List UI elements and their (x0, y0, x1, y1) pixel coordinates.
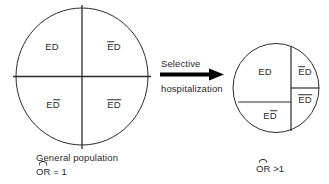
right-cell-label-ebar-dbar: ED (298, 95, 312, 105)
left-caption-or-label: OR (36, 166, 50, 178)
berkson-bias-figure: ED ED ED ED General population OR = 1 Se… (0, 0, 329, 184)
left-cell-label-ed: ED (45, 42, 59, 52)
right-cell-ebar-d-e: E (298, 67, 305, 77)
left-circle-caption: General population OR = 1 (36, 152, 118, 178)
right-cell-label-ed: ED (258, 67, 272, 77)
left-cell-ed-d: D (52, 41, 59, 52)
right-caption-or-label: OR (256, 163, 270, 175)
left-caption-title: General population (36, 152, 118, 164)
right-caption-odds-ratio: OR >1 (256, 163, 284, 175)
left-circle-group (13, 5, 151, 149)
arrow-head (209, 69, 224, 81)
right-cell-ebar-d-d: D (305, 66, 312, 77)
left-cell-label-ebar-dbar: ED (107, 100, 121, 110)
right-cell-ebar-dbar-d: D (305, 95, 312, 105)
right-circle-caption: OR >1 (256, 163, 284, 175)
left-caption-odds-ratio: OR = 1 (36, 166, 118, 178)
transition-label-line2: hospitalization (161, 84, 223, 94)
right-cell-ed-d: D (265, 66, 272, 77)
left-caption-or-value: = 1 (53, 166, 67, 177)
right-cell-label-e-dbar: ED (263, 111, 277, 121)
left-cell-ebar-dbar-d: D (114, 100, 121, 110)
left-cell-label-ebar-d: ED (107, 42, 121, 52)
left-cell-ebar-d-e: E (107, 42, 114, 52)
left-cell-ebar-d-d: D (114, 41, 121, 52)
right-cell-label-ebar-d: ED (298, 67, 312, 77)
right-caption-or-value: >1 (273, 163, 284, 174)
left-cell-label-e-dbar: ED (46, 100, 60, 110)
selective-hospitalization-arrow-group (160, 69, 224, 81)
right-cell-e-dbar-d: D (270, 111, 277, 121)
left-cell-e-dbar-d: D (53, 100, 60, 110)
transition-label-line1: Selective (161, 59, 200, 69)
